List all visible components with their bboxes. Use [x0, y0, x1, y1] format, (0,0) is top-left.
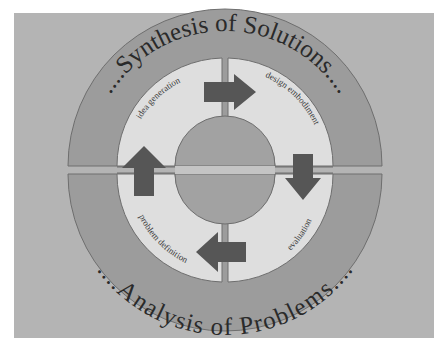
design-cycle-diagram: idea generation design embodiment evalua…: [0, 0, 448, 354]
center-circle: [175, 116, 275, 224]
